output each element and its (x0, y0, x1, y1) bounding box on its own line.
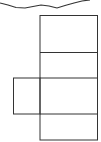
face-dividers (40, 53, 98, 115)
side-face-square (14, 78, 41, 114)
cube-net-diagram (0, 0, 101, 142)
torn-edge-line (0, 0, 90, 8)
